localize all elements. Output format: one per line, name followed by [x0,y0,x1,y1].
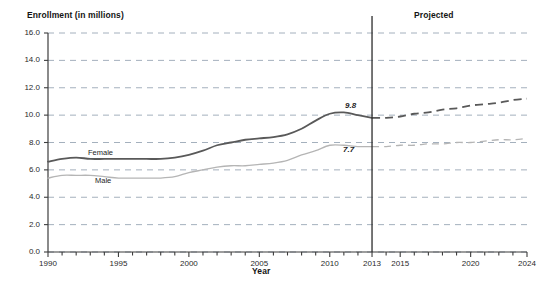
x-tick-label: 2005 [250,259,268,268]
y-tick-label: 14.0 [14,55,40,64]
x-tick-label: 1995 [110,259,128,268]
x-tick-label: 2015 [391,259,409,268]
series-line-male-actual [48,145,372,178]
x-tick-label: 2010 [321,259,339,268]
x-tick-label: 2020 [462,259,480,268]
data-series [48,99,527,178]
y-tick-label: 4.0 [14,192,40,201]
y-tick-label: 8.0 [14,138,40,147]
y-tick-label: 16.0 [14,28,40,37]
x-tick-label: 2013 [363,259,381,268]
y-tick-label: 12.0 [14,83,40,92]
x-tick-label: 2000 [180,259,198,268]
gridlines [48,33,527,252]
x-tick-label: 1990 [39,259,57,268]
x-tick-label: 2024 [518,259,536,268]
chart-container: Enrollment (in millions) Projected Year … [0,0,538,292]
axis-ticks [44,33,527,257]
y-tick-label: 10.0 [14,110,40,119]
y-tick-label: 6.0 [14,165,40,174]
y-tick-label: 2.0 [14,220,40,229]
series-line-female-actual [48,112,372,161]
plot-area [0,0,538,292]
y-tick-label: 0.0 [14,247,40,256]
